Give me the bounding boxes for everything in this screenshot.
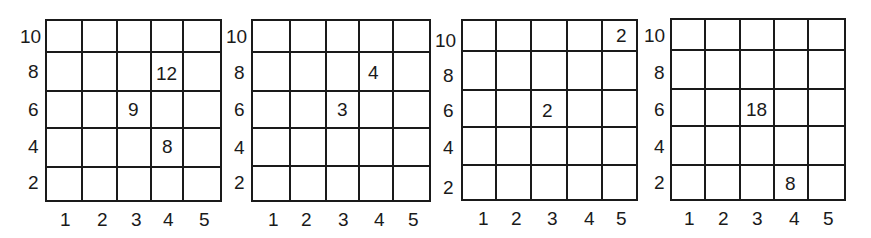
grid-3-y-label: 4 [443,137,454,158]
grid-4-y-label: 10 [644,25,665,46]
grid-3-x-label: 5 [616,208,627,229]
grid-2-y-label: 6 [234,99,245,120]
grid-2-y-label: 2 [234,172,245,193]
grid-3-x-label: 3 [547,208,558,229]
grid-4-x-label: 3 [752,208,763,229]
grid-2-y-label: 4 [234,137,245,158]
grid-2-y-label: 8 [234,62,245,83]
grid-3-y-label: 6 [443,100,454,121]
grid-4-cell-value: 8 [785,173,796,194]
grid-1-cell-value: 8 [162,136,173,157]
grid-1-x-label: 2 [97,209,108,230]
grid-1-y-label: 2 [28,172,39,193]
grid-panel-4: 10 8 6 4 2 1 2 3 4 5 18 8 [644,19,845,229]
grid-1-y-label: 10 [20,26,41,47]
grid-2-x-label: 3 [338,209,349,230]
grid-4-y-label: 4 [654,136,665,157]
grid-4-x-label: 2 [718,208,729,229]
grid-4-y-label: 2 [654,172,665,193]
grid-4-cell-value: 18 [746,99,767,120]
grid-3-x-label: 4 [584,208,595,229]
grid-2-cell-value: 4 [368,62,379,83]
grid-1-y-label: 4 [28,136,39,157]
grid-4-x-label: 1 [684,208,695,229]
grid-4-y-label: 8 [654,62,665,83]
grid-1-x-label: 3 [131,209,142,230]
grid-3-y-label: 10 [435,30,456,51]
grid-1-y-label: 6 [28,99,39,120]
grid-2-x-label: 4 [374,209,385,230]
grid-3-y-label: 8 [443,65,454,86]
grid-diagram-set: 10 8 6 4 2 1 2 3 4 5 12 9 8 10 8 6 4 2 1… [0,0,871,238]
grid-panel-2: 10 8 6 4 2 1 2 3 4 5 4 3 [226,20,430,230]
grid-3-y-label: 2 [443,177,454,198]
grid-3-cell-value: 2 [616,25,627,46]
grid-panel-1: 10 8 6 4 2 1 2 3 4 5 12 9 8 [20,20,221,230]
grid-1-y-label: 8 [28,61,39,82]
grid-2-x-label: 5 [408,209,419,230]
grid-1-cell-value: 9 [128,99,139,120]
grid-4-x-label: 4 [789,208,800,229]
grid-2-cell-value: 3 [337,99,348,120]
grid-3-cell-value: 2 [542,100,553,121]
grid-1-x-label: 4 [163,209,174,230]
grid-4-y-label: 6 [654,99,665,120]
grid-2-y-label: 10 [226,26,247,47]
grid-3-x-label: 1 [478,208,489,229]
grid-panel-3: 10 8 6 4 2 1 2 3 4 5 2 2 [435,20,637,229]
grid-2-x-label: 2 [301,209,312,230]
grid-1-cell-value: 12 [156,63,177,84]
grid-2-x-label: 1 [268,209,279,230]
grid-3-x-label: 2 [511,208,522,229]
grid-1-x-label: 1 [60,209,71,230]
grid-4-x-label: 5 [823,208,834,229]
grid-1-x-label: 5 [199,209,210,230]
